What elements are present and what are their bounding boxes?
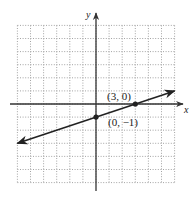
point-label-3-0: (3, 0) <box>107 90 131 103</box>
data-point <box>93 115 98 120</box>
point-label-0-neg1: (0, −1) <box>108 116 138 129</box>
x-axis-label: x <box>183 104 189 115</box>
y-axis-label: y <box>85 9 91 20</box>
data-point <box>133 101 138 106</box>
coordinate-graph: x y (3, 0) (0, −1) <box>0 0 194 197</box>
axes <box>10 13 183 191</box>
